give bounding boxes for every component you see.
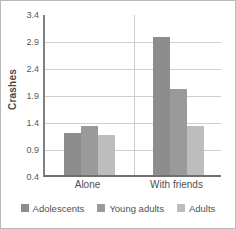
y-axis-tick-label: 1.9	[26, 91, 39, 101]
x-axis-category-labels: AloneWith friends	[43, 179, 221, 195]
legend-swatch-icon	[21, 204, 29, 212]
legend-swatch-icon	[97, 204, 105, 212]
bar-group	[134, 15, 223, 175]
bar	[98, 135, 115, 175]
chart-legend: AdolescentsYoung adultsAdults	[1, 199, 235, 217]
legend-item[interactable]: Adults	[177, 203, 215, 214]
legend-item[interactable]: Young adults	[97, 203, 164, 214]
bar	[64, 133, 81, 175]
bars	[45, 15, 221, 175]
bar-group	[45, 15, 134, 175]
bar	[170, 89, 187, 175]
bar	[187, 126, 204, 175]
bar	[81, 126, 98, 175]
legend-label: Adults	[189, 203, 215, 214]
legend-item[interactable]: Adolescents	[21, 203, 85, 214]
x-axis-category-label: Alone	[75, 179, 101, 190]
y-axis-title-text: Crashes	[7, 69, 18, 110]
plot-area	[43, 15, 221, 177]
x-axis-category-label: With friends	[150, 179, 203, 190]
legend-label: Young adults	[109, 203, 164, 214]
legend-label: Adolescents	[33, 203, 85, 214]
legend-swatch-icon	[177, 204, 185, 212]
chart-figure: Crashes 0.40.91.41.92.42.93.4 AloneWith …	[0, 0, 236, 229]
y-axis-tick-label: 0.9	[26, 145, 39, 155]
bar	[153, 37, 170, 175]
y-axis-tick-label: 2.4	[26, 64, 39, 74]
y-axis-tick-label: 3.4	[26, 10, 39, 20]
y-axis-tick-labels: 0.40.91.41.92.42.93.4	[19, 15, 41, 177]
y-axis-tick-label: 0.4	[26, 172, 39, 182]
y-axis-tick-label: 2.9	[26, 37, 39, 47]
y-axis-tick-label: 1.4	[26, 118, 39, 128]
